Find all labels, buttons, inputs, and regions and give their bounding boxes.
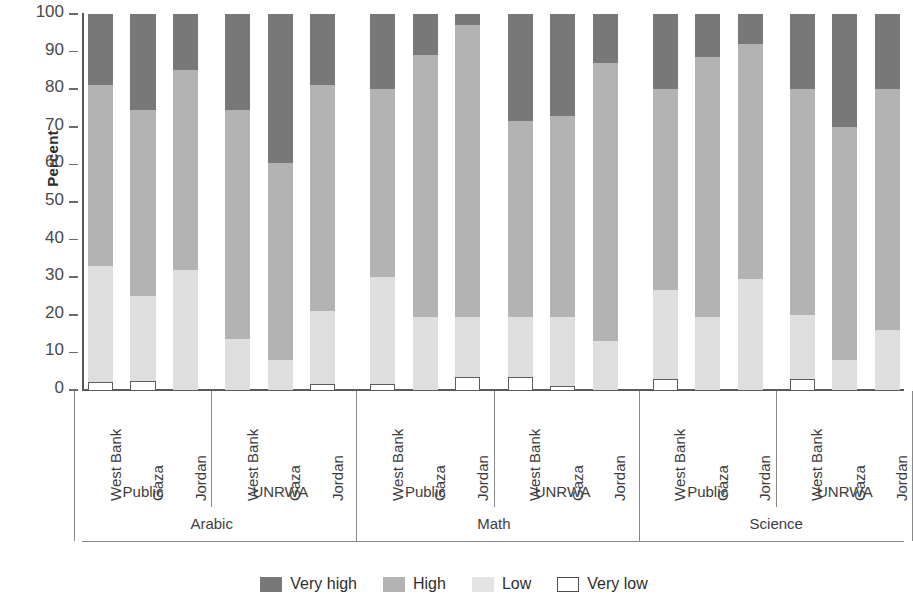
legend-label: Low	[502, 575, 531, 593]
bar	[738, 14, 763, 390]
bar-segment-very-low	[790, 379, 815, 390]
x-axis-bottom-rule	[82, 541, 904, 542]
y-axis-tick-mark	[69, 13, 78, 15]
bar-segment-low	[268, 360, 293, 390]
bar-segment-low	[695, 317, 720, 390]
legend-item[interactable]: Low	[472, 575, 531, 593]
bar-segment-very-high	[832, 14, 857, 127]
bar	[413, 14, 438, 390]
x-axis-sector-label: Public	[83, 483, 203, 500]
x-axis-subject-label: Science	[706, 515, 846, 532]
bar	[550, 14, 575, 390]
bar-segment-low	[310, 311, 335, 384]
bar-segment-low	[88, 266, 113, 383]
bar-segment-very-high	[310, 14, 335, 85]
bar-segment-very-high	[593, 14, 618, 63]
chart-legend: Very highHighLowVery low	[0, 575, 908, 593]
bar-segment-low	[413, 317, 438, 390]
bar	[593, 14, 618, 390]
y-axis-tick-label: 10	[24, 340, 64, 360]
x-axis-subject-separator	[356, 391, 357, 541]
bar	[268, 14, 293, 390]
bar-segment-very-low	[370, 384, 395, 390]
bar	[653, 14, 678, 390]
bar-segment-low	[225, 339, 250, 390]
y-axis-tick-mark	[69, 201, 78, 203]
bar-segment-high	[790, 89, 815, 315]
bar-segment-very-high	[88, 14, 113, 85]
bar-segment-very-low	[88, 382, 113, 390]
bar-segment-low	[832, 360, 857, 390]
bar-segment-high	[413, 55, 438, 316]
bar-segment-low	[455, 317, 480, 377]
bar-segment-very-high	[455, 14, 480, 25]
bar	[225, 14, 250, 390]
bar-segment-low	[370, 277, 395, 384]
legend-item[interactable]: High	[383, 575, 446, 593]
bar	[790, 14, 815, 390]
legend-item[interactable]: Very low	[557, 575, 647, 593]
medium-gray-swatch	[383, 577, 405, 592]
bar-segment-very-high	[653, 14, 678, 89]
bar	[832, 14, 857, 390]
bar-segment-low	[738, 279, 763, 390]
x-axis-sector-label: UNRWA	[785, 483, 905, 500]
bar-segment-high	[268, 163, 293, 360]
bar-segment-very-high	[268, 14, 293, 163]
y-axis-tick-label: 20	[24, 303, 64, 323]
x-axis-subject-label: Arabic	[142, 515, 282, 532]
bar-segment-low	[173, 270, 198, 390]
x-axis-sector-label: UNRWA	[220, 483, 340, 500]
bar-segment-very-high	[130, 14, 155, 110]
bar-segment-high	[173, 70, 198, 269]
bar-segment-high	[550, 116, 575, 317]
bar-segment-high	[370, 89, 395, 277]
bar-segment-high	[508, 121, 533, 317]
y-axis-tick-label: 80	[24, 77, 64, 97]
x-axis-sector-label: UNRWA	[503, 483, 623, 500]
x-axis-subject-separator	[639, 391, 640, 541]
bar-segment-very-high	[790, 14, 815, 89]
dark-gray-swatch	[260, 577, 282, 592]
bar-segment-very-high	[738, 14, 763, 44]
x-axis-sector-separator	[494, 391, 495, 507]
bar-segment-low	[790, 315, 815, 379]
y-axis-tick-mark	[69, 51, 78, 53]
y-axis-tick-label: 90	[24, 40, 64, 60]
x-axis-sector-separator	[776, 391, 777, 507]
bar-segment-low	[550, 317, 575, 387]
y-axis-tick-label: 50	[24, 190, 64, 210]
legend-label: Very high	[290, 575, 357, 593]
plot-area	[82, 14, 904, 390]
legend-label: High	[413, 575, 446, 593]
bar-segment-high	[310, 85, 335, 311]
bar	[310, 14, 335, 390]
x-axis-sector-separator	[211, 391, 212, 507]
y-axis-tick-mark	[69, 352, 78, 354]
bar	[455, 14, 480, 390]
bar-segment-very-high	[508, 14, 533, 121]
y-axis-tick-mark	[69, 239, 78, 241]
x-axis-subject-label: Math	[424, 515, 564, 532]
light-gray-swatch	[472, 577, 494, 592]
bar-segment-high	[225, 110, 250, 339]
y-axis-tick-label: 100	[24, 2, 64, 22]
bar-segment-low	[508, 317, 533, 377]
bar-segment-high	[832, 127, 857, 360]
y-axis-tick-label: 40	[24, 228, 64, 248]
bar-segment-low	[130, 296, 155, 381]
y-axis-tick-label: 0	[24, 378, 64, 398]
legend-item[interactable]: Very high	[260, 575, 357, 593]
bar-segment-very-low	[310, 384, 335, 390]
x-axis-sector-label: Public	[365, 483, 485, 500]
bar-segment-very-low	[508, 377, 533, 390]
bar-segment-high	[455, 25, 480, 316]
bar-segment-very-high	[225, 14, 250, 110]
bar-segment-very-high	[370, 14, 395, 89]
bar-segment-very-high	[875, 14, 900, 89]
y-axis-tick-mark	[69, 88, 78, 90]
bar	[88, 14, 113, 390]
bar-segment-low	[653, 290, 678, 378]
bar-segment-high	[130, 110, 155, 296]
